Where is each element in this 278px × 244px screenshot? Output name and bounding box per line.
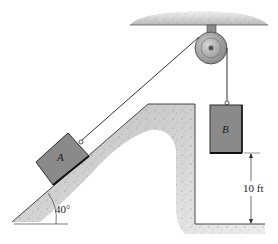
ceiling-support — [130, 11, 268, 25]
incline-angle-label: 40° — [55, 203, 70, 215]
block-a-label: A — [57, 151, 64, 163]
pulley-diagram — [0, 0, 278, 244]
block-b-label: B — [222, 123, 229, 135]
height-dimension-label: 10 ft — [243, 182, 263, 194]
pulley — [195, 32, 227, 64]
